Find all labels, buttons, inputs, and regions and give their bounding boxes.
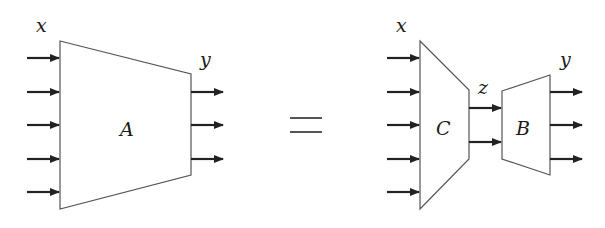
- network-equivalence-diagram: A x y C B x z y: [0, 0, 605, 228]
- right-input-label: x: [396, 14, 407, 36]
- right-network: C B x z y: [387, 14, 582, 209]
- left-network: A x y: [27, 14, 223, 209]
- right-input-arrows: [387, 58, 419, 192]
- block-c-label: C: [436, 117, 451, 139]
- left-output-label: y: [199, 48, 211, 70]
- right-output-label: y: [559, 48, 571, 70]
- left-input-label: x: [36, 14, 47, 36]
- equals-sign-icon: [290, 118, 322, 132]
- latent-arrows: [469, 108, 501, 142]
- latent-label: z: [477, 76, 489, 98]
- block-b-label: B: [515, 117, 530, 139]
- block-a-label: A: [118, 118, 134, 140]
- left-input-arrows: [27, 58, 59, 192]
- right-output-arrows: [550, 92, 582, 159]
- left-output-arrows: [191, 92, 223, 159]
